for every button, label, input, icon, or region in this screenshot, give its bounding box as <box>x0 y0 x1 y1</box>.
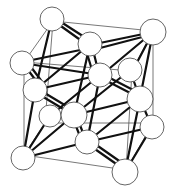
crystal-structure-diagram <box>0 0 177 190</box>
atom-circle <box>11 146 35 170</box>
atom-circle <box>88 63 112 87</box>
atom-circle <box>10 51 34 75</box>
atom-circle <box>39 105 61 127</box>
atom-circle <box>118 58 142 82</box>
atom-circle <box>140 19 166 45</box>
atom-circle <box>61 102 87 128</box>
atom-circle <box>127 86 153 112</box>
atom-circle <box>78 32 102 56</box>
unit-cell-canvas <box>0 0 177 190</box>
atom-circle <box>112 159 138 185</box>
atom-circle <box>23 78 47 102</box>
atom-circle <box>75 130 99 154</box>
atom-circle <box>140 115 164 139</box>
atom-circle <box>40 7 64 31</box>
atoms <box>10 7 166 185</box>
cube-edge <box>24 155 126 170</box>
